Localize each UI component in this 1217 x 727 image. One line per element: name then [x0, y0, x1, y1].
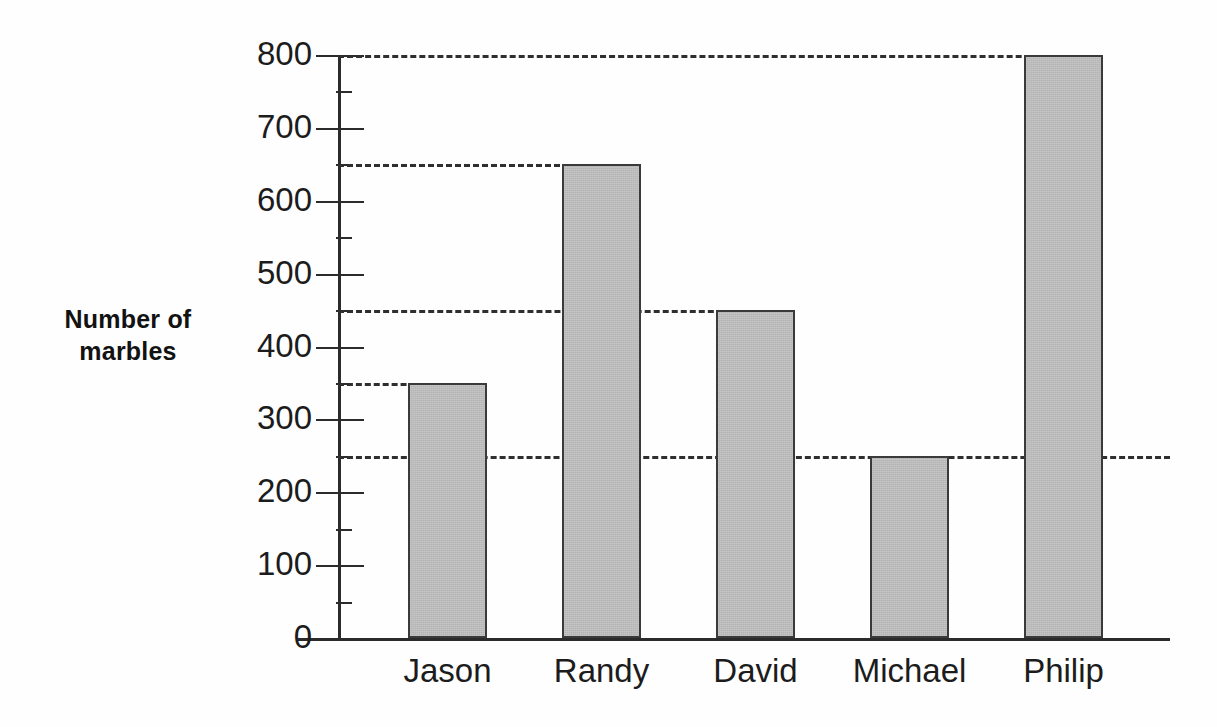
y-axis-title: Number of marbles [30, 303, 226, 367]
plot-area: 0100200300400500600700800 [338, 55, 1170, 638]
y-tick-minor [336, 91, 352, 93]
bar-david[interactable] [716, 310, 795, 638]
y-tick-mark [316, 419, 364, 421]
y-tick-label: 800 [257, 36, 312, 72]
y-tick-label: 600 [257, 182, 312, 218]
y-tick-minor [336, 529, 352, 531]
y-tick-label: 700 [257, 109, 312, 145]
gridline-800 [338, 55, 1103, 58]
y-tick-mark [316, 347, 364, 349]
bar-chart: Number of marbles 0100200300400500600700… [0, 0, 1217, 727]
y-tick-label: 500 [257, 255, 312, 291]
x-axis-label-jason: Jason [371, 651, 525, 691]
y-tick-mark [316, 128, 364, 130]
y-tick-label: 300 [257, 400, 312, 436]
y-tick-minor [336, 602, 352, 604]
bar-philip[interactable] [1024, 55, 1103, 638]
x-axis-label-michael: Michael [833, 651, 987, 691]
y-tick-label: 400 [257, 328, 312, 364]
y-tick-mark [316, 201, 364, 203]
y-tick-label: 200 [257, 473, 312, 509]
bar-michael[interactable] [870, 456, 949, 638]
x-axis-label-david: David [679, 651, 833, 691]
x-axis-label-philip: Philip [987, 651, 1141, 691]
x-axis-line [298, 638, 1170, 641]
y-tick-minor [336, 237, 352, 239]
y-tick-mark [316, 492, 364, 494]
y-tick-label: 0 [294, 619, 312, 655]
bar-jason[interactable] [408, 383, 487, 638]
bar-randy[interactable] [562, 164, 641, 638]
x-axis-label-randy: Randy [525, 651, 679, 691]
y-tick-mark [316, 565, 364, 567]
y-tick-mark [316, 274, 364, 276]
y-tick-mark [316, 638, 364, 640]
y-tick-label: 100 [257, 546, 312, 582]
